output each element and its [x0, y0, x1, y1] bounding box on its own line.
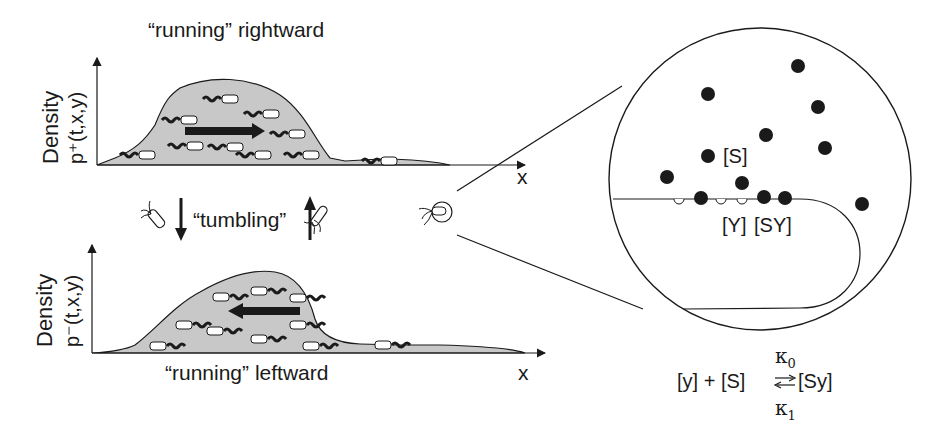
receptor-label: [Y]	[722, 214, 746, 237]
zoom-circle	[609, 28, 911, 330]
top-density-plot	[97, 58, 525, 165]
bacterium-down-icon	[141, 201, 166, 229]
reverse-rate-constant: κ1	[775, 396, 796, 423]
top-panel-title: “running” rightward	[148, 18, 324, 42]
bottom-panel-title: “running” leftward	[165, 361, 328, 385]
complex-label: [SY]	[754, 214, 792, 237]
reaction-rhs: [Sy]	[798, 370, 832, 393]
reaction-arrows	[775, 375, 795, 388]
top-xlabel: x	[517, 165, 528, 189]
forward-rate-constant: κ0	[775, 344, 796, 371]
bottom-ylabel-density: Density	[32, 274, 58, 347]
reaction-lhs: [y] + [S]	[677, 370, 745, 393]
bottom-ylabel-function: p⁻(t,x,y)	[60, 275, 84, 347]
bottom-xlabel: x	[518, 361, 529, 385]
top-ylabel-function: p⁺(t,x,y)	[64, 92, 88, 164]
ligand-label: [S]	[723, 145, 747, 168]
top-ylabel-density: Density	[38, 91, 64, 164]
bottom-density-curve	[92, 271, 525, 353]
bacterium-zoom-icon	[419, 202, 452, 225]
bottom-density-plot	[92, 245, 545, 353]
tumbling-label: “tumbling”	[193, 208, 286, 232]
